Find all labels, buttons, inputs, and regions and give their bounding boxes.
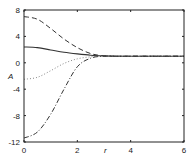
series-line-solid bbox=[24, 47, 184, 56]
plot-lines bbox=[24, 17, 184, 138]
x-axis-label: r bbox=[104, 146, 107, 155]
y-tick-label: -4 bbox=[13, 85, 21, 94]
y-tick-label: 0 bbox=[16, 59, 21, 68]
axes-box bbox=[24, 10, 184, 142]
line-chart: 0246840-4-8-12 A r bbox=[0, 0, 195, 161]
y-axis-label: A bbox=[7, 72, 13, 81]
x-tick-label: 2 bbox=[75, 146, 80, 155]
series-line-dashed bbox=[24, 17, 184, 57]
y-tick-label: 4 bbox=[16, 32, 21, 41]
x-tick-label: 6 bbox=[182, 146, 187, 155]
y-tick-label: -8 bbox=[13, 112, 21, 121]
series-line-dotted bbox=[24, 56, 184, 79]
y-tick-label: 8 bbox=[16, 6, 21, 15]
x-tick-label: 4 bbox=[128, 146, 133, 155]
x-tick-label: 0 bbox=[22, 146, 27, 155]
y-tick-label: -12 bbox=[8, 138, 20, 147]
axis-ticks: 0246840-4-8-12 bbox=[8, 6, 186, 155]
series-line-dash-dot bbox=[24, 56, 184, 138]
